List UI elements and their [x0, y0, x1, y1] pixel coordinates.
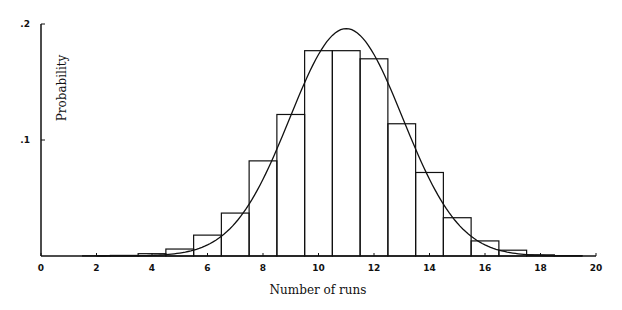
histogram-bar: [360, 59, 388, 256]
y-tick-label: .2: [20, 19, 30, 29]
normal-curve: [97, 29, 583, 256]
y-axis-title: Probability: [55, 54, 69, 121]
histogram-bar: [416, 172, 444, 256]
histogram-bars: [83, 51, 583, 256]
x-tick-label: 20: [590, 263, 603, 273]
histogram-bar: [277, 114, 305, 256]
x-tick-label: 10: [312, 263, 325, 273]
x-tick-label: 6: [204, 263, 210, 273]
histogram-bar: [305, 51, 333, 256]
histogram-chart: 02468101214161820 .1.2 Number of runs Pr…: [0, 0, 622, 310]
histogram-bar: [221, 213, 249, 256]
histogram-bar: [332, 51, 360, 256]
histogram-bar: [388, 124, 416, 256]
x-tick-label: 12: [368, 263, 381, 273]
x-tick-label: 4: [149, 263, 155, 273]
x-tick-label: 14: [423, 263, 436, 273]
x-tick-label: 18: [534, 263, 547, 273]
histogram-bar: [249, 161, 277, 256]
x-axis-title: Number of runs: [270, 283, 367, 297]
x-tick-label: 8: [260, 263, 266, 273]
y-tick-label: .1: [20, 135, 30, 145]
x-tick-label: 0: [38, 263, 44, 273]
x-tick-label: 2: [93, 263, 99, 273]
x-tick-label: 16: [479, 263, 492, 273]
